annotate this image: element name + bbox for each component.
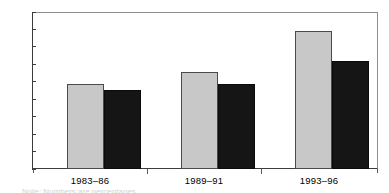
x-axis-tick-start — [33, 169, 34, 173]
bar-1983-86-dark — [104, 90, 141, 169]
x-axis-label-1989-91: 1989–91 — [147, 175, 261, 186]
x-axis-label-1983-86: 1983–86 — [33, 175, 147, 186]
bars-layer — [33, 12, 377, 169]
x-axis-separator-2 — [261, 169, 262, 174]
x-axis-separator-1 — [147, 169, 148, 174]
bar-1989-91-light — [181, 72, 218, 169]
x-axis-tick-end — [377, 169, 378, 173]
bar-1983-86-light — [67, 84, 104, 169]
x-axis-label-1993-96: 1993–96 — [261, 175, 377, 186]
bar-1993-96-dark — [332, 61, 369, 169]
bar-1989-91-dark — [218, 84, 255, 169]
y-axis: 18 16 14 12 10 8 6 4 2 0 — [0, 0, 32, 193]
footer-caption: Note: Numbers are percentages — [22, 187, 136, 193]
bar-1993-96-light — [295, 31, 332, 169]
bar-chart: 18 16 14 12 10 8 6 4 2 0 — [0, 0, 389, 193]
